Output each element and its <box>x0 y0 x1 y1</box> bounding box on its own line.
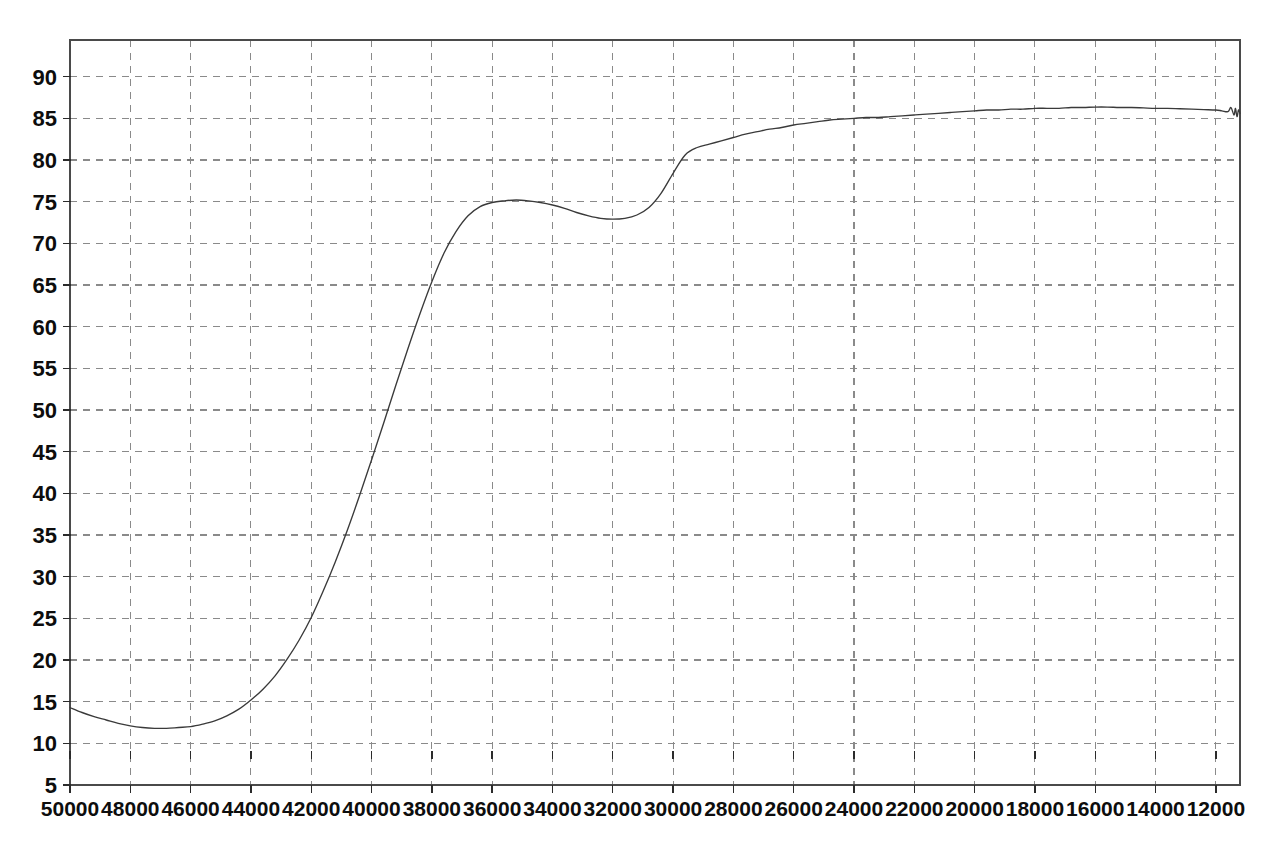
x-axis-tick-label: 44000 <box>222 797 280 820</box>
x-axis-tick-label: 20000 <box>945 797 1003 820</box>
data-curve-layer <box>70 107 1240 728</box>
x-axis-tick-label: 14000 <box>1126 797 1184 820</box>
y-axis-tick-label: 20 <box>33 648 57 673</box>
chart-container: 51015202530354045505560657075808590 5000… <box>0 0 1282 856</box>
y-axis-tick-label: 35 <box>33 523 57 548</box>
x-axis-tick-label: 50000 <box>41 797 99 820</box>
x-axis-tick-label: 26000 <box>765 797 823 820</box>
x-axis-tick-label: 36000 <box>463 797 521 820</box>
y-axis-tick-label: 25 <box>33 606 57 631</box>
y-axis-tick-label: 5 <box>45 773 57 798</box>
x-axis-tick-label: 42000 <box>282 797 340 820</box>
x-axis-tick-labels: 5000048000460004400042000400003800036000… <box>41 797 1245 820</box>
x-axis-tick-label: 48000 <box>101 797 159 820</box>
y-axis-tick-label: 55 <box>33 356 57 381</box>
y-axis-tick-label: 45 <box>33 440 57 465</box>
y-axis-tick-label: 70 <box>33 231 57 256</box>
axis-frame <box>70 40 1240 785</box>
plot-frame <box>70 40 1240 785</box>
y-axis-tick-label: 30 <box>33 565 57 590</box>
y-axis-tick-label: 65 <box>33 273 57 298</box>
y-axis-tick-label: 85 <box>33 106 57 131</box>
x-axis-tick-label: 28000 <box>704 797 762 820</box>
x-axis-tick-label: 34000 <box>523 797 581 820</box>
data-curve <box>70 107 1240 728</box>
y-axis-tick-label: 75 <box>33 190 57 215</box>
x-axis-tick-label: 38000 <box>403 797 461 820</box>
y-axis-tick-label: 40 <box>33 481 57 506</box>
x-axis-tick-label: 24000 <box>825 797 883 820</box>
x-axis-tick-label: 40000 <box>342 797 400 820</box>
y-axis-tick-label: 80 <box>33 148 57 173</box>
y-axis-tick-label: 90 <box>33 65 57 90</box>
x-axis-tick-label: 30000 <box>644 797 702 820</box>
y-axis-tick-label: 10 <box>33 731 57 756</box>
x-axis-tick-label: 22000 <box>885 797 943 820</box>
spectrum-chart: 51015202530354045505560657075808590 5000… <box>0 0 1282 856</box>
x-axis-tick-label: 18000 <box>1006 797 1064 820</box>
x-axis-tick-label: 32000 <box>584 797 642 820</box>
y-axis-tick-label: 15 <box>33 690 57 715</box>
grid-layer <box>70 40 1240 785</box>
y-axis-tick-labels: 51015202530354045505560657075808590 <box>33 65 57 798</box>
y-axis-tick-label: 60 <box>33 315 57 340</box>
x-axis-tick-label: 46000 <box>161 797 219 820</box>
x-axis-tick-label: 16000 <box>1066 797 1124 820</box>
tick-marks <box>63 77 1216 793</box>
x-axis-tick-label: 12000 <box>1187 797 1245 820</box>
y-axis-tick-label: 50 <box>33 398 57 423</box>
